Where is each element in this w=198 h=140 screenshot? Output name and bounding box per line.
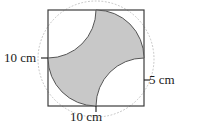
geometry-figure: 10 cm 10 cm 5 cm <box>0 0 198 140</box>
dimension-label-bottom: 10 cm <box>70 110 102 123</box>
dimension-label-left: 10 cm <box>4 51 36 64</box>
astroid-star-shape <box>48 10 144 106</box>
dimension-label-right: 5 cm <box>149 73 175 86</box>
